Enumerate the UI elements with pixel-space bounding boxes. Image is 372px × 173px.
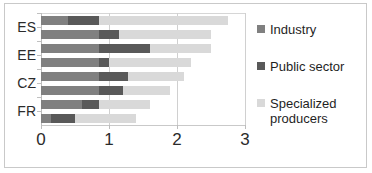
bar-segment-industry xyxy=(41,30,99,39)
bar-segment-public-sector xyxy=(51,114,75,123)
bar-row xyxy=(41,100,150,109)
category-tick xyxy=(37,83,41,84)
bar-segment-industry xyxy=(41,44,99,53)
bar-segment-industry xyxy=(41,114,51,123)
bar-segment-public-sector xyxy=(99,72,128,81)
category-tick xyxy=(37,69,41,70)
value-tick-1 xyxy=(109,125,110,129)
bar-row xyxy=(41,72,184,81)
legend-label-specialized-producers: Specialized producers xyxy=(270,96,365,126)
legend-swatch-public-sector xyxy=(257,62,265,70)
plot-area xyxy=(41,13,245,125)
bar-segment-specialized-producers xyxy=(99,16,228,25)
bar-row xyxy=(41,86,170,95)
legend-swatch-industry xyxy=(257,25,265,33)
bar-segment-specialized-producers xyxy=(109,58,191,67)
bar-segment-industry xyxy=(41,72,99,81)
plot-top-border xyxy=(41,13,245,14)
category-axis-line xyxy=(41,125,246,126)
value-axis-label-2: 2 xyxy=(162,130,192,150)
chart-legend: Industry Public sector Specialized produ… xyxy=(257,22,365,148)
value-tick-3 xyxy=(245,125,246,129)
bar-segment-specialized-producers xyxy=(150,44,211,53)
bar-segment-public-sector xyxy=(82,100,99,109)
bar-segment-industry xyxy=(41,86,99,95)
category-axis-label-CZ: CZ xyxy=(8,75,36,91)
legend-label-industry: Industry xyxy=(270,22,316,37)
value-tick-2 xyxy=(177,125,178,129)
bar-segment-industry xyxy=(41,100,82,109)
bar-segment-specialized-producers xyxy=(99,100,150,109)
bar-segment-public-sector xyxy=(99,86,123,95)
bar-segment-industry xyxy=(41,16,68,25)
category-tick xyxy=(37,41,41,42)
bar-segment-public-sector xyxy=(99,44,150,53)
category-axis-label-EE: EE xyxy=(8,47,36,63)
chart-container: 0123 ESEECZFR Industry Public sector Spe… xyxy=(0,0,372,173)
legend-label-public-sector: Public sector xyxy=(270,59,344,74)
legend-item-industry: Industry xyxy=(257,22,365,37)
bar-row xyxy=(41,44,211,53)
category-tick xyxy=(37,27,41,28)
bar-segment-specialized-producers xyxy=(123,86,171,95)
bar-row xyxy=(41,30,211,39)
category-tick xyxy=(37,55,41,56)
category-tick xyxy=(37,97,41,98)
legend-item-specialized-producers: Specialized producers xyxy=(257,96,365,126)
category-axis-label-FR: FR xyxy=(8,103,36,119)
bar-row xyxy=(41,114,136,123)
bar-row xyxy=(41,16,228,25)
category-tick xyxy=(37,13,41,14)
bar-segment-public-sector xyxy=(99,58,109,67)
gridline-3 xyxy=(245,13,246,125)
legend-swatch-specialized-producers xyxy=(257,99,265,107)
value-axis-label-1: 1 xyxy=(94,130,124,150)
value-axis-label-3: 3 xyxy=(230,130,260,150)
value-tick-0 xyxy=(41,125,42,129)
bar-segment-industry xyxy=(41,58,99,67)
bar-segment-public-sector xyxy=(99,30,119,39)
category-axis-label-ES: ES xyxy=(8,19,36,35)
bar-row xyxy=(41,58,191,67)
value-axis-label-0: 0 xyxy=(26,130,56,150)
bar-segment-specialized-producers xyxy=(75,114,136,123)
bar-segment-specialized-producers xyxy=(119,30,211,39)
category-tick xyxy=(37,111,41,112)
legend-item-public-sector: Public sector xyxy=(257,59,365,74)
bar-segment-public-sector xyxy=(68,16,99,25)
bar-segment-specialized-producers xyxy=(128,72,184,81)
